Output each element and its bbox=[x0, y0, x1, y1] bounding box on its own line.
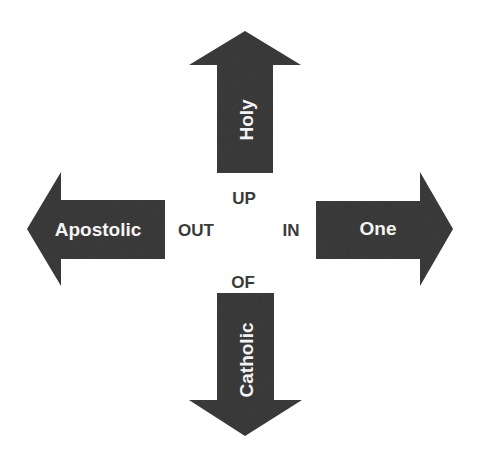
arrow-left: Apostolic bbox=[27, 172, 165, 286]
arrow-up: Holy bbox=[189, 31, 301, 173]
arrow-down: Catholic bbox=[189, 293, 302, 436]
arrow-up-label: Holy bbox=[236, 99, 257, 141]
arrow-right-label: One bbox=[360, 218, 397, 239]
diagram-canvas: Holy Apostolic One Catholic UP OUT IN OF bbox=[0, 0, 483, 461]
arrow-right: One bbox=[316, 172, 453, 286]
center-label-up: UP bbox=[232, 189, 256, 208]
center-label-in: IN bbox=[283, 221, 300, 240]
arrow-left-label: Apostolic bbox=[55, 219, 142, 240]
center-label-of: OF bbox=[231, 273, 255, 292]
center-label-out: OUT bbox=[178, 221, 215, 240]
arrow-down-label: Catholic bbox=[236, 322, 257, 397]
four-marks-diagram: Holy Apostolic One Catholic UP OUT IN OF bbox=[0, 0, 483, 461]
